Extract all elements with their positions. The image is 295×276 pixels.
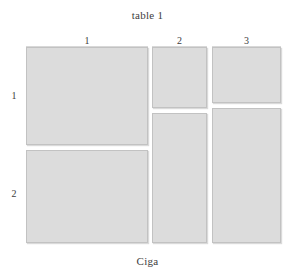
row-header-1: 1 <box>6 90 22 102</box>
cell-r1-c1[interactable] <box>26 47 148 145</box>
cell-r2-c1[interactable] <box>26 150 148 243</box>
page-title: table 1 <box>0 8 295 22</box>
row-header-2: 2 <box>6 188 22 200</box>
cell-r1-c3[interactable] <box>212 47 281 103</box>
figure-caption: Ciga <box>0 254 295 268</box>
cell-r1-c2[interactable] <box>152 47 207 108</box>
table-layout-figure: table 1 1 2 3 1 2 Ciga <box>0 0 295 276</box>
cell-r2-c2[interactable] <box>152 113 207 243</box>
cell-r2-c3[interactable] <box>212 108 281 243</box>
